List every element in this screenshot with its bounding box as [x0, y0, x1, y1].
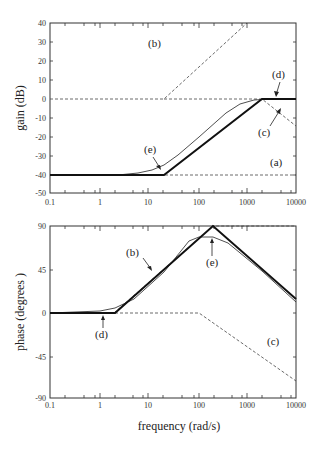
- y-tick-label: -30: [35, 152, 46, 161]
- phase-label-d: (d): [95, 328, 108, 341]
- y-tick-label: -40: [35, 171, 46, 180]
- gain-label-c: (c): [258, 126, 271, 139]
- x-tick-label: 0.1: [45, 198, 55, 207]
- phase-y-tick-labels: 90 45 0 -45 -90: [35, 222, 46, 403]
- x-tick-label: 10000: [286, 401, 306, 410]
- x-tick-label: 1000: [239, 198, 255, 207]
- phase-label-c: (c): [267, 335, 280, 348]
- x-tick-label: 0.1: [45, 401, 55, 410]
- gain-arrowhead-e: [156, 165, 161, 170]
- gain-x-ticks: [65, 23, 291, 193]
- y-tick-label: 40: [38, 19, 46, 28]
- y-tick-label: 0: [42, 309, 46, 318]
- phase-series-d: [50, 226, 296, 313]
- y-tick-label: 90: [38, 222, 46, 231]
- phase-arrowhead-d: [101, 315, 105, 320]
- y-tick-label: 10: [38, 76, 46, 85]
- gain-label-e: (e): [144, 143, 157, 156]
- phase-arrowhead-e: [210, 238, 214, 243]
- gain-plot: 40 30 20 10 0 -10 -20 -30 -40 -50 0.1 1 …: [13, 19, 306, 207]
- x-tick-label: 1: [98, 401, 102, 410]
- gain-y-ticks: [50, 42, 296, 175]
- gain-x-tick-labels: 0.1 1 10 100 1000 10000: [45, 198, 306, 207]
- y-tick-label: -50: [35, 189, 46, 198]
- gain-axis-title: gain (dB): [13, 85, 27, 131]
- y-tick-label: 0: [42, 95, 46, 104]
- y-tick-label: 20: [38, 57, 46, 66]
- y-tick-label: -10: [35, 114, 46, 123]
- x-tick-label: 10: [144, 401, 152, 410]
- gain-arrowhead-d: [274, 91, 279, 97]
- phase-arrowhead-b: [147, 266, 152, 271]
- y-tick-label: -45: [35, 353, 46, 362]
- frequency-axis-title: frequency (rad/s): [138, 419, 220, 433]
- phase-axis-title: phase (degrees ): [13, 273, 27, 351]
- phase-series-b: [114, 226, 296, 313]
- gain-y-tick-labels: 40 30 20 10 0 -10 -20 -30 -40 -50: [35, 19, 46, 198]
- gain-label-a: (a): [270, 156, 283, 169]
- y-tick-label: 45: [38, 266, 46, 275]
- y-tick-label: -20: [35, 133, 46, 142]
- bode-plot-figure: 40 30 20 10 0 -10 -20 -30 -40 -50 0.1 1 …: [0, 0, 324, 453]
- gain-series-c: [164, 99, 296, 126]
- phase-label-b: (b): [126, 246, 139, 259]
- x-tick-label: 10: [144, 198, 152, 207]
- phase-series-e: [50, 237, 296, 313]
- x-tick-label: 100: [193, 401, 205, 410]
- x-tick-label: 100: [193, 198, 205, 207]
- phase-x-tick-labels: 0.1 1 10 100 1000 10000: [45, 401, 306, 410]
- phase-plot: 90 45 0 -45 -90 0.1 1 10 100 1000 10000 …: [13, 222, 306, 433]
- x-tick-label: 10000: [286, 198, 306, 207]
- gain-label-b: (b): [148, 37, 161, 50]
- phase-label-e: (e): [206, 256, 219, 269]
- x-tick-label: 1: [98, 198, 102, 207]
- x-tick-label: 1000: [239, 401, 255, 410]
- y-tick-label: 30: [38, 38, 46, 47]
- gain-label-d: (d): [272, 68, 285, 81]
- gain-series-b: [50, 23, 247, 99]
- phase-series-c: [50, 313, 296, 381]
